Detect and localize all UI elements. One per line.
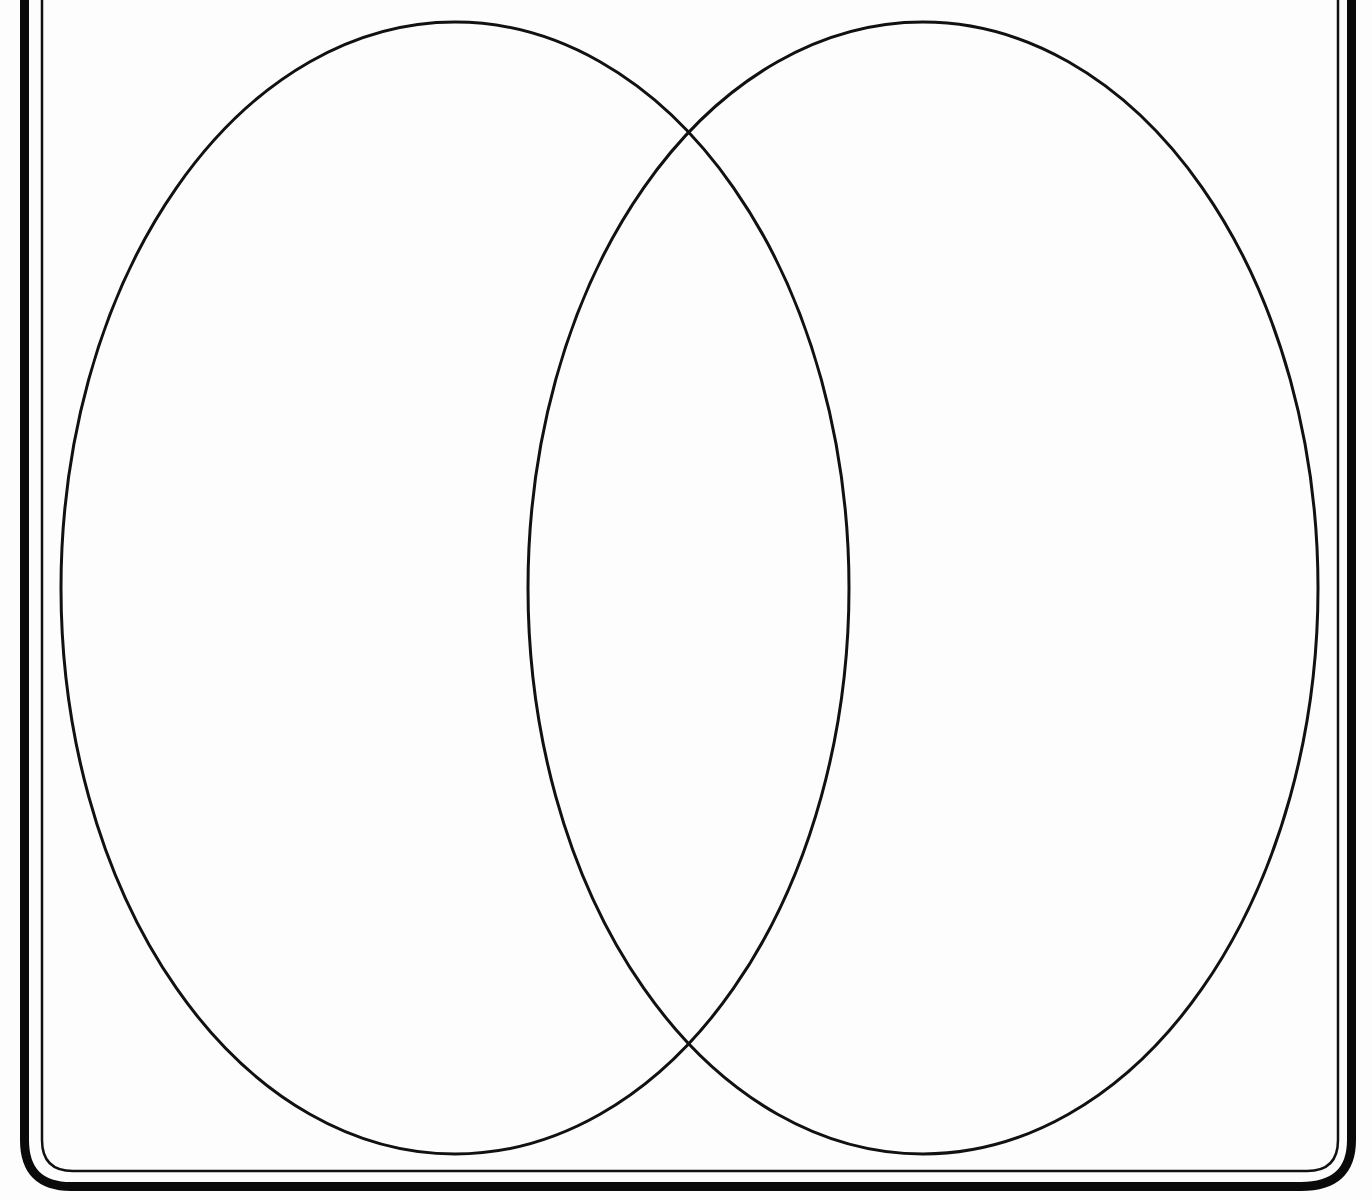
venn-diagram-svg	[0, 0, 1372, 1200]
inner-frame-border	[42, 0, 1338, 1171]
venn-diagram-canvas	[0, 0, 1372, 1200]
venn-set-left	[61, 22, 849, 1154]
outer-frame-border	[25, 0, 1352, 1187]
venn-set-right	[528, 22, 1318, 1154]
